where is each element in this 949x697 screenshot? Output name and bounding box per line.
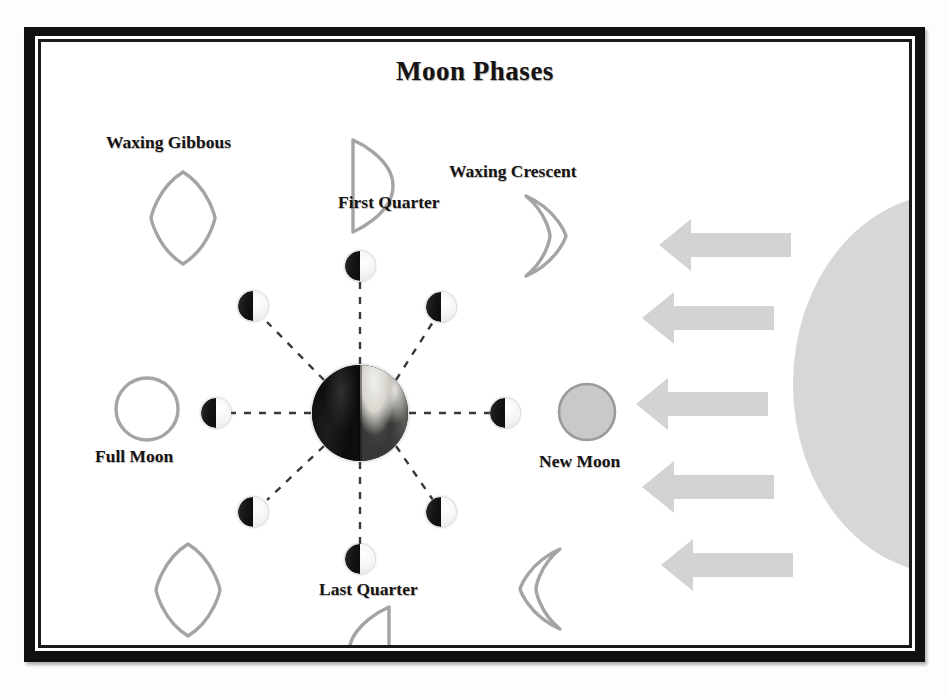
orbit-moon-first-quarter bbox=[345, 251, 375, 281]
label-first-quarter: First Quarter bbox=[338, 192, 440, 213]
figure-new-moon bbox=[556, 381, 618, 443]
poster-frame-white-gap: Moon Phases bbox=[35, 36, 915, 651]
figure-waxing-crescent bbox=[514, 192, 570, 280]
earth-globe bbox=[312, 365, 408, 461]
poster-outer-frame: Moon Phases bbox=[24, 27, 925, 662]
orbit-moon-waning-crescent bbox=[426, 497, 456, 527]
poster-inner-frame: Moon Phases bbox=[38, 39, 912, 648]
scanned-page-background: Moon Phases bbox=[0, 0, 949, 697]
label-new-moon: New Moon bbox=[539, 451, 620, 472]
figure-waning-crescent bbox=[516, 545, 572, 633]
label-full-moon: Full Moon bbox=[95, 446, 173, 467]
figure-first-quarter bbox=[347, 137, 395, 235]
orbit-moon-waxing-crescent bbox=[426, 292, 456, 322]
orbit-moon-full-moon bbox=[201, 398, 231, 428]
label-waxing-gibbous: Waxing Gibbous bbox=[106, 132, 231, 153]
orbit-moon-new-moon bbox=[490, 398, 520, 428]
figure-last-quarter bbox=[347, 604, 395, 645]
diagram-canvas: Moon Phases bbox=[41, 42, 909, 645]
earth-terminator-line bbox=[359, 365, 362, 461]
figure-waxing-gibbous bbox=[149, 170, 217, 266]
figure-waning-gibbous bbox=[154, 542, 222, 638]
label-last-quarter: Last Quarter bbox=[319, 579, 418, 600]
earth-day-side bbox=[360, 365, 408, 461]
orbit-moon-waning-gibbous bbox=[238, 497, 268, 527]
orbit-moon-waxing-gibbous bbox=[238, 291, 268, 321]
earth-night-side bbox=[312, 365, 360, 461]
label-waxing-crescent: Waxing Crescent bbox=[449, 161, 577, 182]
orbit-moon-last-quarter bbox=[345, 544, 375, 574]
figure-full-moon bbox=[113, 375, 181, 443]
